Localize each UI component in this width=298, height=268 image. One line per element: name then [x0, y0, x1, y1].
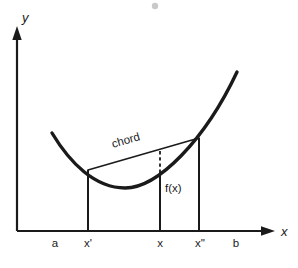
convex-function-curve	[52, 72, 237, 188]
tick-label-x-prime: x'	[84, 237, 92, 249]
convex-chord-figure: y x chord f(x) a x' x x'' b	[0, 0, 298, 268]
figure-canvas: y x chord f(x) a x' x x'' b	[0, 0, 298, 268]
tick-label-b: b	[233, 237, 239, 249]
scan-speck-artifact	[152, 3, 158, 9]
tick-label-a: a	[52, 237, 59, 249]
chord-label: chord	[110, 130, 141, 150]
x-axis-label: x	[280, 224, 288, 239]
f-of-x-label: f(x)	[165, 182, 182, 194]
tick-label-x: x	[157, 237, 163, 249]
y-axis-arrowhead	[12, 26, 21, 40]
tick-label-x-double-prime: x''	[195, 237, 205, 249]
y-axis-label: y	[21, 10, 30, 25]
x-axis-arrowhead	[261, 226, 275, 235]
